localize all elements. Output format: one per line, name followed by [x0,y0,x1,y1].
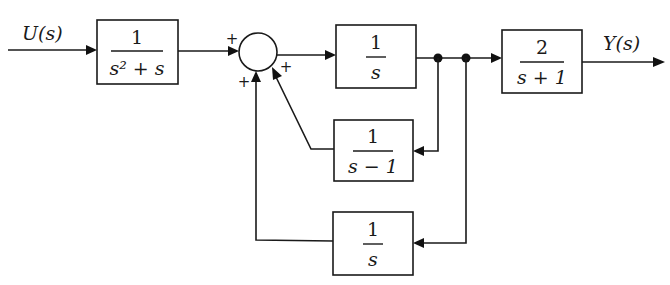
arrow-icon [325,50,336,60]
sign-left: + [226,30,239,48]
sign-lower-right: + [280,58,293,76]
block-g2-denominator: s [371,61,381,83]
block-h2-numerator: 1 [367,218,379,240]
input-label: U(s) [22,22,63,44]
arrow-icon [86,45,97,55]
block-h2[interactable]: 1 s [333,212,413,275]
block-g1[interactable]: 1 s² + s [97,20,178,84]
block-g3-denominator: s + 1 [517,66,567,88]
block-g2-numerator: 1 [370,31,382,53]
arrow-icon [251,71,261,82]
block-diagram: U(s) 1 s² + s + + + 1 s 2 s + 1 [0,0,670,285]
block-h2-denominator: s [368,248,378,270]
block-g2[interactable]: 1 s [336,25,416,88]
arrow-icon [491,53,502,63]
block-h1[interactable]: 1 s − 1 [334,120,413,181]
wire-h1-to-sum [276,77,334,149]
block-g1-denominator: s² + s [109,57,164,79]
sign-bottom: + [238,73,251,91]
output-label: Y(s) [603,32,640,54]
wire-h2-to-sum [256,80,333,241]
arrow-icon [413,238,424,248]
block-h1-numerator: 1 [367,125,379,147]
input-signal: U(s) [8,22,97,55]
wire-takeoff1-to-h1 [420,58,438,151]
arrow-icon [413,146,424,156]
arrow-icon [653,57,665,67]
block-g3-numerator: 2 [536,36,548,58]
block-h1-denominator: s − 1 [348,155,398,177]
block-g3[interactable]: 2 s + 1 [502,30,582,93]
output-signal: Y(s) [582,32,665,67]
block-g1-numerator: 1 [131,26,143,48]
